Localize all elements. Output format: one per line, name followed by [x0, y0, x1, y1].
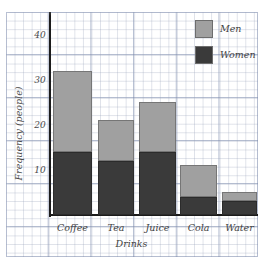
bar-segment-women-coffee [53, 152, 92, 215]
legend-item-women: Women [195, 44, 259, 70]
bar-tea [98, 120, 134, 215]
y-tick-label: 30 [20, 75, 46, 85]
bar-segment-women-water [222, 201, 257, 215]
bar-segment-men-coffee [53, 71, 92, 152]
bar-segment-men-juice [139, 102, 176, 152]
legend-label-women: Women [220, 49, 256, 60]
legend-swatch-women [195, 46, 213, 64]
x-axis-title: Drinks [0, 238, 263, 249]
y-tick-label: 40 [20, 30, 46, 40]
x-tick-label-tea: Tea [94, 222, 138, 233]
y-tick-label: 10 [20, 165, 46, 175]
legend-swatch-men [195, 20, 213, 38]
bar-chart: 10 20 30 40 Frequency (people) CoffeeTea… [0, 0, 263, 265]
y-tick-label: 20 [20, 120, 46, 130]
bar-coffee [53, 71, 92, 215]
bar-segment-men-cola [180, 165, 217, 197]
x-tick-label-cola: Cola [176, 222, 221, 233]
bar-segment-men-water [222, 192, 257, 201]
bar-segment-women-juice [139, 152, 176, 215]
x-tick-label-water: Water [218, 222, 261, 233]
chart-legend: Men Women [195, 18, 259, 70]
bar-segment-women-cola [180, 197, 217, 215]
bar-juice [139, 102, 176, 215]
bar-segment-men-tea [98, 120, 134, 161]
bar-cola [180, 165, 217, 215]
bar-water [222, 192, 257, 215]
legend-label-men: Men [220, 23, 241, 34]
x-tick-label-coffee: Coffee [49, 222, 96, 233]
bar-segment-women-tea [98, 161, 134, 215]
y-axis-title: Frequency (people) [13, 74, 24, 194]
legend-item-men: Men [195, 18, 259, 44]
x-tick-label-juice: Juice [135, 222, 180, 233]
